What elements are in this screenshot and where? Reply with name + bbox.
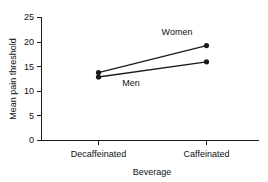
data-point-men-decaffeinated <box>96 74 101 79</box>
x-tick-label-caffeinated: Caffeinated <box>184 149 230 159</box>
x-axis-title: Beverage <box>133 167 172 177</box>
x-tick-label-decaffeinated: Decaffeinated <box>71 149 126 159</box>
series-label-men: Men <box>122 78 140 88</box>
y-axis-title: Mean pain threshold <box>8 38 18 120</box>
series-line-women <box>99 46 207 73</box>
y-tick-label-15: 15 <box>24 62 34 72</box>
chart-canvas: 25 20 15 10 5 0 Decaffeinated Caffeinate… <box>0 0 268 182</box>
y-tick-label-25: 25 <box>24 12 34 22</box>
y-tick-label-5: 5 <box>29 111 34 121</box>
y-tick-label-10: 10 <box>24 86 34 96</box>
series-line-men <box>99 62 207 77</box>
data-point-women-caffeinated <box>204 43 209 48</box>
y-tick-label-20: 20 <box>24 37 34 47</box>
y-tick-label-0: 0 <box>29 135 34 145</box>
series-label-women: Women <box>162 27 193 37</box>
interaction-plot-figure: 25 20 15 10 5 0 Decaffeinated Caffeinate… <box>0 0 268 182</box>
data-point-men-caffeinated <box>204 59 209 64</box>
